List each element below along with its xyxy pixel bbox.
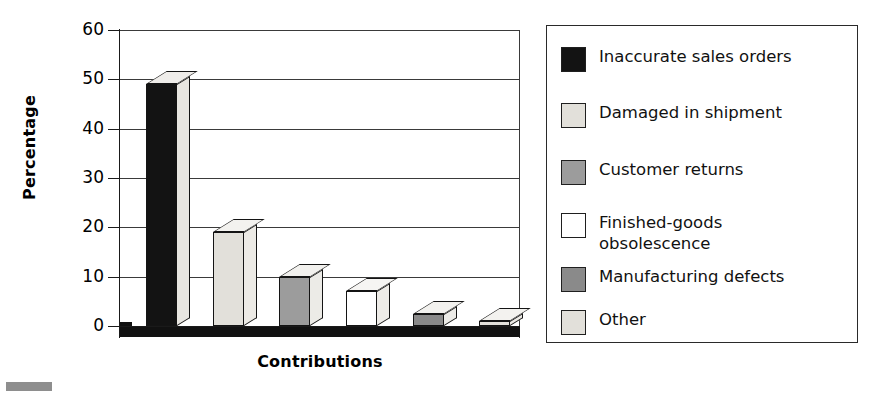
legend-item-4[interactable]: Finished-goods obsolescence (561, 212, 847, 254)
legend-item-3[interactable]: Customer returns (561, 159, 847, 185)
bar-4 (346, 291, 377, 326)
y-tick-mark-10 (108, 277, 120, 278)
legend-swatch-dark-gray (561, 267, 586, 292)
bar-6-top-face (479, 308, 531, 321)
y-axis-tick-labels: 6050403020100 (52, 0, 104, 395)
legend-item-label: Finished-goods obsolescence (599, 212, 722, 254)
legend-item-6[interactable]: Other (561, 309, 847, 335)
bar-3 (279, 277, 310, 326)
y-tick-mark-20 (108, 227, 120, 228)
bar-6-front-face (479, 321, 510, 326)
bar-1 (146, 84, 177, 326)
plot-area (120, 30, 520, 337)
legend-item-2[interactable]: Damaged in shipment (561, 102, 847, 128)
gridline-0 (120, 326, 520, 327)
chart-legend: Inaccurate sales ordersDamaged in shipme… (546, 25, 858, 343)
y-tick-label-30: 30 (52, 169, 104, 186)
y-tick-mark-40 (108, 129, 120, 130)
bar-2 (213, 232, 244, 326)
bar-3-top-face (279, 264, 331, 277)
legend-swatch-light-gray (561, 103, 586, 128)
bar-3-front-face (279, 277, 310, 326)
legend-item-label: Damaged in shipment (599, 102, 782, 123)
legend-swatch-medium-gray (561, 160, 586, 185)
y-tick-mark-0 (108, 326, 120, 327)
bar-5 (413, 314, 444, 326)
y-tick-label-40: 40 (52, 120, 104, 137)
bar-1-top-face (146, 71, 198, 84)
bar-2-side-face (244, 224, 257, 326)
legend-swatch-light-gray-2 (561, 310, 586, 335)
legend-item-5[interactable]: Manufacturing defects (561, 266, 847, 292)
chart-plot-panel: Percentage 6050403020100 Contributions (0, 0, 540, 395)
pareto-chart-figure: Percentage 6050403020100 Contributions I… (0, 0, 872, 408)
plot-floor-slab (120, 326, 520, 337)
y-tick-label-0: 0 (52, 317, 104, 334)
bar-2-front-face (213, 232, 244, 326)
legend-item-label: Customer returns (599, 159, 743, 180)
bar-4-top-face (346, 278, 398, 291)
legend-item-1[interactable]: Inaccurate sales orders (561, 46, 847, 72)
bar-1-front-face (146, 84, 177, 326)
legend-swatch-black (561, 47, 586, 72)
y-tick-label-50: 50 (52, 70, 104, 87)
bar-6 (479, 321, 510, 326)
y-tick-label-10: 10 (52, 268, 104, 285)
y-tick-mark-60 (108, 30, 120, 31)
legend-item-label: Inaccurate sales orders (599, 46, 792, 67)
legend-swatch-white (561, 213, 586, 238)
y-tick-mark-50 (108, 79, 120, 80)
gridline-60 (120, 30, 520, 31)
y-tick-mark-30 (108, 178, 120, 179)
bar-5-front-face (413, 314, 444, 326)
legend-item-label: Other (599, 309, 646, 330)
y-tick-label-20: 20 (52, 218, 104, 235)
scan-artifact-mark (6, 382, 52, 391)
y-tick-label-60: 60 (52, 21, 104, 38)
bar-4-front-face (346, 291, 377, 326)
bar-3-side-face (310, 269, 323, 326)
legend-item-label: Manufacturing defects (599, 266, 784, 287)
y-axis-title: Percentage (20, 83, 39, 213)
x-axis-title: Contributions (120, 352, 520, 371)
bar-1-side-face (177, 76, 190, 326)
